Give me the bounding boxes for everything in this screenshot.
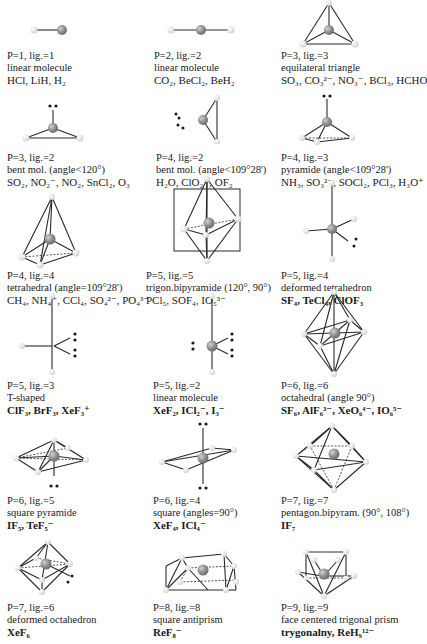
cell-p8-lig8: P=8, lig.=8 square antiprism ReF₈⁻ xyxy=(142,540,284,644)
t-shaped-figure xyxy=(14,292,84,376)
tetrahedron-figure xyxy=(14,193,84,275)
p-lig-label: P=6, lig.=4 xyxy=(153,495,237,507)
shape-label: square (angles=90°) xyxy=(153,507,237,519)
central-atom xyxy=(57,25,67,35)
linear-diatomic-figure xyxy=(20,18,80,42)
trigonal-planar-figure xyxy=(294,0,364,48)
shape-label: T-shaped xyxy=(7,392,90,404)
examples-label: XeF₂, ICl₂⁻, I₃⁻ xyxy=(153,405,225,417)
square-planar-figure xyxy=(152,418,242,496)
examples-label: SF₆, AlF₆³⁻, XeO₆⁴⁻, IO₆⁵⁻ xyxy=(281,405,402,417)
shape-label: pentagon.bipyram. (90°, 108°) xyxy=(281,507,409,519)
pentagonal-bipyramid-figure xyxy=(288,422,378,494)
p-lig-label: P=6, lig.=5 xyxy=(7,495,77,507)
linear-trigonal-bipyramid-figure xyxy=(162,292,242,376)
shape-label: deformed octahedron xyxy=(7,614,97,626)
p-lig-label: P=2, lig.=2 xyxy=(154,50,235,62)
tricapped-trigonal-prism-figure xyxy=(294,548,364,600)
cell-p1-lig1: P=1, lig.=1 linear molecule HCl, LiH, H₂ xyxy=(0,0,142,110)
p-lig-label: P=4, lig.=4 xyxy=(7,270,149,282)
examples-label: XeF₄, ICl₄⁻ xyxy=(153,520,237,532)
examples-label: HCl, LiH, H₂ xyxy=(7,75,72,87)
p-lig-label: P=8, lig.=8 xyxy=(153,602,223,614)
cell-p6-lig4: P=6, lig.=4 square (angles=90°) XeF₄, IC… xyxy=(142,450,284,540)
shape-label: linear molecule xyxy=(7,62,72,74)
deformed-octahedron-figure xyxy=(12,540,82,596)
examples-label: CO₂, BeCl₂, BeH₂ xyxy=(154,75,235,87)
examples-label: XeF₆ xyxy=(7,627,97,639)
linear-triatomic-figure xyxy=(162,18,242,42)
p-lig-label: P=5, lig.=5 xyxy=(146,270,271,282)
examples-label: SO₂, NO₂⁻, NO₂, SnCl₂, O₃ xyxy=(7,177,130,189)
square-pyramid-figure xyxy=(6,436,96,496)
p-lig-label: P=3, lig.=2 xyxy=(7,152,130,164)
shape-label: bent mol. (angle<120°) xyxy=(7,164,130,176)
trigonal-bipyramid-figure xyxy=(162,175,252,265)
shape-label: bent mol. (angle<109°28') xyxy=(156,164,266,176)
shape-label: octahedral (angle 90°) xyxy=(281,392,402,404)
cell-p9-lig9: P=9, lig.=9 face centered trigonal prism… xyxy=(284,540,426,644)
cell-p7-lig7: P=7, lig.=7 pentagon.bipyram. (90°, 108°… xyxy=(284,450,426,540)
square-antiprism-figure xyxy=(160,544,240,596)
p-lig-label: P=7, lig.=7 xyxy=(281,495,409,507)
shape-label: square antiprism xyxy=(153,614,223,626)
p-lig-label: P=4, lig.=2 xyxy=(156,152,266,164)
octahedron-figure xyxy=(294,288,374,378)
p-lig-label: P=5, lig.=4 xyxy=(281,270,372,282)
cell-p6-lig5: P=6, lig.=5 square pyramide IF₅, TeF₅⁻ xyxy=(0,450,142,540)
shape-label: face centered trigonal prism xyxy=(281,614,398,626)
cell-p5-lig3: P=5, lig.=3 T-shaped ClF₃, BrF₃, XeF₃⁺ xyxy=(0,330,142,450)
examples-label: IF₅, TeF₅⁻ xyxy=(7,520,77,532)
p-lig-label: P=9, lig.=9 xyxy=(281,602,398,614)
trigonal-pyramid-figure xyxy=(290,90,370,146)
examples-label: IF₇ xyxy=(281,520,409,532)
bent-trigonal-figure xyxy=(18,98,88,146)
examples-label: ReF₈⁻ xyxy=(153,627,223,639)
shape-label: equilateral triangle xyxy=(281,62,427,74)
p-lig-label: P=6, lig.=6 xyxy=(281,380,402,392)
shape-label: linear molecule xyxy=(153,392,225,404)
lone-pair xyxy=(48,104,51,107)
shape-label: linear molecule xyxy=(154,62,235,74)
p-lig-label: P=3, lig.=3 xyxy=(281,50,427,62)
bent-tetrahedral-figure xyxy=(167,94,237,144)
examples-label: trygonalny, ReH₉¹²⁻ xyxy=(281,627,398,639)
cell-p7-lig6: P=7, lig.=6 deformed octahedron XeF₆ xyxy=(0,540,142,644)
p-lig-label: P=5, lig.=2 xyxy=(153,380,225,392)
shape-label: pyramide (angle<109°28') xyxy=(281,164,424,176)
p-lig-label: P=7, lig.=6 xyxy=(7,602,97,614)
examples-label: SO₃, CO₃²⁻, NO₃⁻, BCl₃, HCHO xyxy=(281,75,427,87)
p-lig-label: P=1, lig.=1 xyxy=(7,50,72,62)
examples-label: ClF₃, BrF₃, XeF₃⁺ xyxy=(7,405,90,417)
p-lig-label: P=5, lig.=3 xyxy=(7,380,90,392)
p-lig-label: P=4, lig.=3 xyxy=(281,152,424,164)
shape-label: square pyramide xyxy=(7,507,77,519)
seesaw-figure xyxy=(292,179,372,263)
ligand-atom xyxy=(31,27,38,34)
